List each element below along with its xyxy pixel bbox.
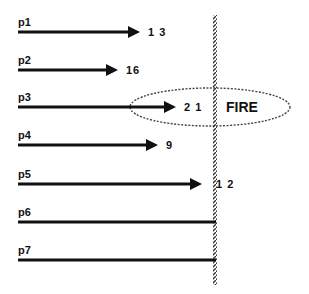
process-value: 2 1 [184,102,202,113]
arrowhead-icon [146,139,158,151]
barrier-line [213,15,217,285]
arrowhead-icon [106,64,118,76]
process-label: p4 [18,130,31,141]
process-value: 16 [126,65,140,76]
process-value: 9 [166,140,173,151]
arrowhead-icon [190,178,202,190]
arrowhead-icon [128,26,140,38]
process-value: 1 2 [216,179,234,190]
process-label: p2 [18,55,31,66]
process-label: p6 [18,207,31,218]
process-arrows [18,26,216,260]
fire-label: FIRE [226,100,258,114]
process-label: p5 [18,169,31,180]
process-label: p7 [18,245,31,256]
process-label: p3 [18,92,31,103]
diagram-canvas [0,0,309,294]
process-label: p1 [18,17,31,28]
process-value: 1 3 [148,27,166,38]
arrowhead-icon [164,101,176,113]
